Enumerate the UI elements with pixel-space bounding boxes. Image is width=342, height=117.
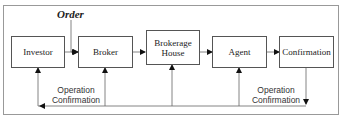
node-brokerage-house-label: Brokerage House [153,38,193,58]
node-confirmation-label: Confirmation [282,47,331,57]
node-agent-label: Agent [229,47,251,57]
node-confirmation: Confirmation [279,36,334,68]
node-investor-label: Investor [23,47,53,57]
node-broker-label: Broker [93,47,118,57]
node-investor: Investor [11,36,65,68]
feedback-label-right: Operation Confirmation [250,86,302,105]
node-brokerage-house: Brokerage House [146,30,200,65]
feedback-label-left: Operation Confirmation [50,86,102,105]
order-label: Order [57,8,84,20]
order-arrow [71,20,78,52]
node-agent: Agent [212,36,267,68]
node-broker: Broker [78,36,133,68]
order-flow-diagram: Order Investor Broker Brokerage House Ag… [0,0,342,117]
